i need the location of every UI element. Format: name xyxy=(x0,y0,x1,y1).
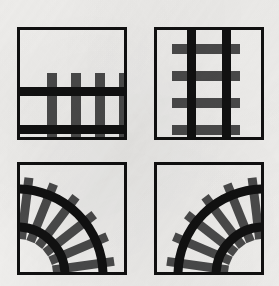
straight-vertical-track-canvas: Straight vertical track xyxy=(154,27,264,140)
curve-track-left-canvas: Curved track, centre lower-left xyxy=(17,162,127,275)
tile-background xyxy=(154,27,264,140)
tile-curve-left: Curved track, centre lower-left xyxy=(17,162,127,275)
straight-horizontal-track-canvas: Straight horizontal track xyxy=(17,27,127,140)
track-rail xyxy=(17,87,127,96)
tile-curve-right: Curved track, centre lower-right xyxy=(154,162,264,275)
figure-root: Straight horizontal track Straight verti… xyxy=(0,0,279,286)
curve-track-right-canvas: Curved track, centre lower-right xyxy=(154,162,264,275)
track-rail xyxy=(222,27,231,140)
track-rail xyxy=(187,27,196,140)
tile-straight-horizontal: Straight horizontal track xyxy=(17,27,127,140)
track-rail xyxy=(17,125,127,134)
tile-straight-vertical: Straight vertical track xyxy=(154,27,264,140)
